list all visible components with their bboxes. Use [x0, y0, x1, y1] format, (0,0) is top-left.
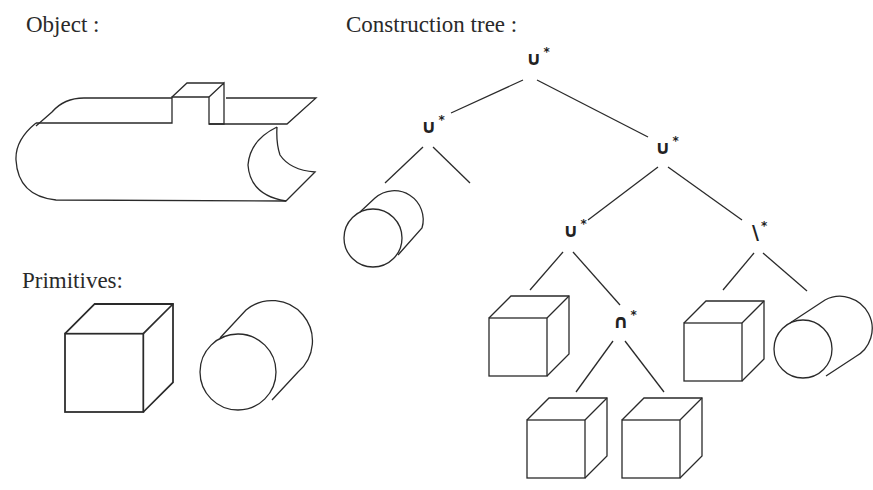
- object-shape: [16, 83, 316, 201]
- primitive-cylinder: [200, 301, 312, 410]
- tree-edges: [385, 80, 807, 392]
- leaf-cube-5: [622, 398, 702, 478]
- leaf-cylinder-1: [344, 191, 423, 267]
- leaf-cube-4: [527, 398, 607, 478]
- primitive-cube: [65, 304, 173, 412]
- leaf-cube-3: [684, 301, 764, 381]
- leaf-cube-2: [489, 296, 569, 376]
- leaf-cylinder-2: [774, 296, 872, 378]
- diagram-drawing: [0, 0, 873, 490]
